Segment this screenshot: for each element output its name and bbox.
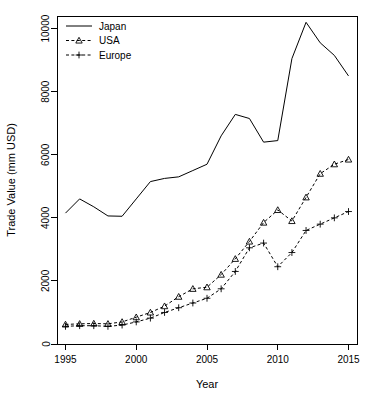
x-tick-label: 2015 <box>337 354 360 365</box>
legend-label: Europe <box>99 50 132 61</box>
x-tick-label: 2010 <box>267 354 290 365</box>
y-tick-label: 4000 <box>41 206 52 229</box>
x-tick-label: 2005 <box>196 354 219 365</box>
y-tick-label: 10000 <box>41 14 52 42</box>
legend-label: Japan <box>99 21 126 32</box>
x-tick-label: 1995 <box>54 354 77 365</box>
legend-entry-japan: Japan <box>66 21 126 32</box>
plot-frame <box>57 16 357 344</box>
x-tick-label: 2000 <box>125 354 148 365</box>
series-europe <box>62 208 352 330</box>
y-tick-label: 0 <box>41 341 52 347</box>
legend-entry-usa: USA <box>66 35 120 46</box>
legend-entry-europe: Europe <box>66 50 132 61</box>
y-tick-label: 8000 <box>41 80 52 103</box>
y-tick-label: 2000 <box>41 269 52 292</box>
data-point-marker <box>303 194 309 200</box>
chart-figure: 0200040006000800010000199520002005201020… <box>0 0 369 408</box>
data-point-marker <box>345 156 351 162</box>
legend-label: USA <box>99 35 120 46</box>
chart-canvas: 0200040006000800010000199520002005201020… <box>0 0 369 408</box>
x-axis-title: Year <box>196 378 219 390</box>
y-tick-label: 6000 <box>41 143 52 166</box>
y-axis-title: Trade Value (mm USD) <box>5 123 17 237</box>
data-point-marker <box>317 170 323 176</box>
data-point-marker <box>161 303 167 309</box>
